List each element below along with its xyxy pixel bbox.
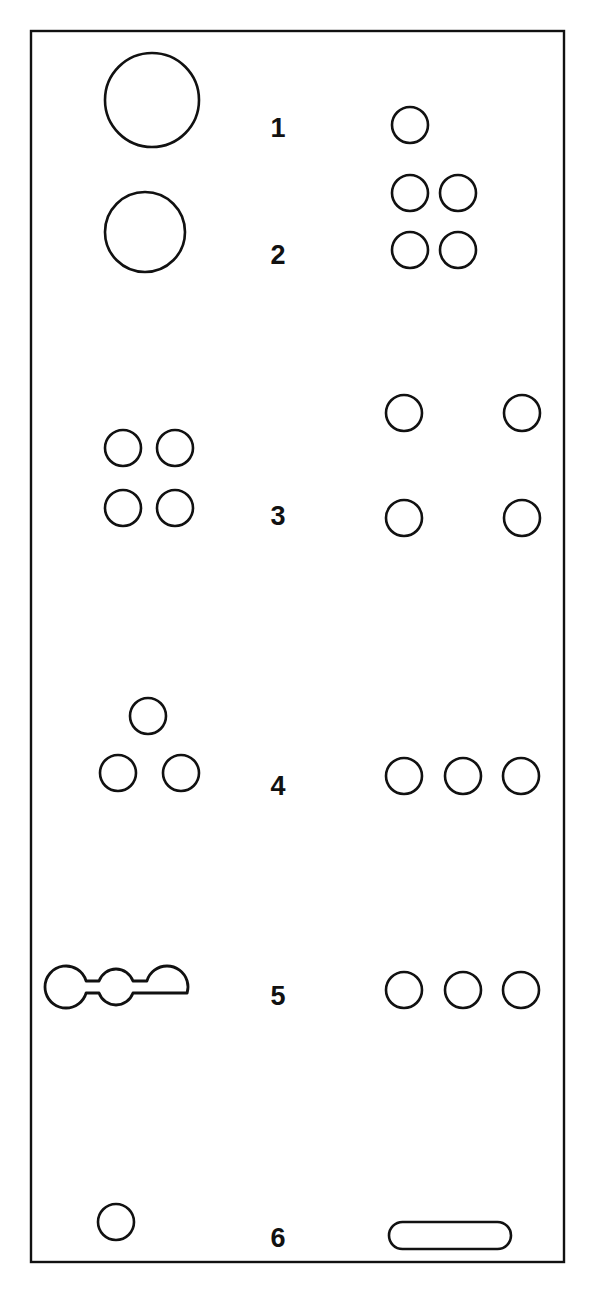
circle-shape xyxy=(440,175,476,211)
circle-shape xyxy=(163,755,199,791)
circle-shape xyxy=(130,698,166,734)
left-group-single-large-circle xyxy=(105,53,199,147)
circle-shape xyxy=(98,1204,134,1240)
circle-shape xyxy=(157,430,193,466)
circle-shape xyxy=(504,500,540,536)
row-label-6: 6 xyxy=(270,1223,285,1253)
figure-canvas: 123456 xyxy=(0,0,589,1298)
right-group-single-small-circle xyxy=(392,107,428,143)
circle-shape xyxy=(105,53,199,147)
circle-shape xyxy=(445,758,481,794)
row-label-3: 3 xyxy=(270,501,285,531)
circle-shape xyxy=(386,972,422,1008)
circle-shape xyxy=(440,232,476,268)
circle-shape xyxy=(504,395,540,431)
circle-shape xyxy=(386,395,422,431)
right-group-stadium-pill xyxy=(389,1222,511,1249)
circle-shape xyxy=(503,972,539,1008)
circle-shape xyxy=(386,500,422,536)
circle-shape xyxy=(392,232,428,268)
circle-shape xyxy=(157,490,193,526)
row-label-1: 1 xyxy=(270,113,285,143)
circle-shape xyxy=(100,755,136,791)
row-label-2: 2 xyxy=(270,240,285,270)
circle-shape xyxy=(503,758,539,794)
circle-shape xyxy=(392,107,428,143)
circle-shape xyxy=(105,430,141,466)
circle-shape xyxy=(386,758,422,794)
figure-page: 123456 xyxy=(0,0,589,1298)
row-label-5: 5 xyxy=(270,981,285,1011)
stadium-shape xyxy=(389,1222,511,1249)
circle-shape xyxy=(105,192,185,272)
circle-shape xyxy=(392,175,428,211)
row-label-4: 4 xyxy=(270,771,285,801)
circle-shape xyxy=(445,972,481,1008)
left-group-single-small-circle xyxy=(98,1204,134,1240)
right-group-horizontal-row xyxy=(386,972,539,1008)
right-group-horizontal-row xyxy=(386,758,539,794)
circle-shape xyxy=(105,490,141,526)
left-group-single-large-circle xyxy=(105,192,185,272)
